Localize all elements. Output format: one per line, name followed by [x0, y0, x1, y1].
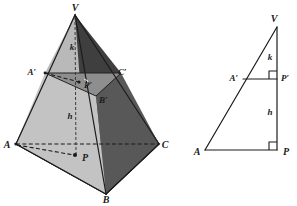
label-P-prime-left: P′ [84, 80, 92, 90]
geometry-figure-svg: V k A′ C′ P′ B′ h A C P B V k A′ P′ [0, 0, 297, 206]
label-P-prime-right: P′ [281, 73, 289, 83]
label-A-prime-right: A′ [228, 73, 238, 83]
label-C-left: C [162, 139, 169, 150]
label-P-right: P [283, 146, 290, 157]
point-Aprime-dot [44, 72, 47, 75]
label-B-prime-left: B′ [98, 95, 108, 105]
label-k-right: k [268, 52, 273, 62]
label-C-prime-left: C′ [118, 67, 127, 77]
label-A-left: A [3, 139, 11, 150]
label-B-left: B [102, 194, 110, 205]
point-Pprime-dot [77, 80, 80, 83]
point-P-dot [73, 153, 77, 157]
label-h-right: h [267, 107, 272, 117]
label-P-left: P [82, 152, 89, 163]
label-h-left: h [67, 111, 72, 121]
label-k-left: k [70, 42, 75, 52]
label-A-right: A [193, 146, 201, 157]
figure-root: V k A′ C′ P′ B′ h A C P B V k A′ P′ [0, 0, 297, 206]
label-A-prime-left: A′ [26, 67, 36, 77]
point-A-dot [14, 142, 17, 145]
